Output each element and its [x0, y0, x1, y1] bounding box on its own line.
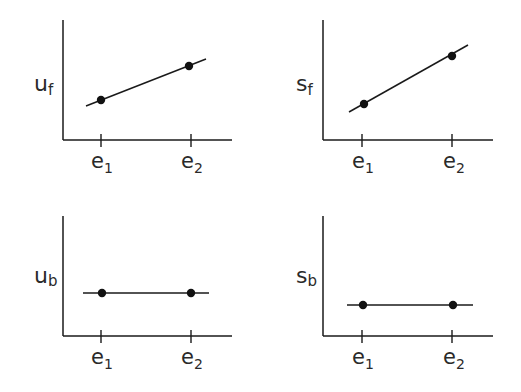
x-tick-label-e2: e2 — [443, 345, 465, 372]
x-tick-label-e1: e1 — [352, 149, 374, 176]
y-axis-label: uf — [34, 71, 54, 99]
data-point-e1 — [97, 96, 105, 104]
data-point-e2 — [448, 52, 456, 60]
panel-sb: sb e1 e2 — [296, 216, 493, 372]
data-point-e1 — [360, 100, 368, 108]
data-point-e2 — [449, 301, 457, 309]
panel-sf: sf e1 e2 — [296, 20, 493, 176]
data-point-e1 — [98, 289, 106, 297]
data-point-e1 — [359, 301, 367, 309]
y-axis-label: sb — [296, 263, 317, 290]
x-tick-label-e2: e2 — [181, 345, 203, 372]
x-tick-label-e1: e1 — [91, 149, 113, 176]
y-axis-label: sf — [296, 71, 313, 99]
x-tick-label-e1: e1 — [352, 345, 374, 372]
data-point-e2 — [185, 62, 193, 70]
x-tick-label-e1: e1 — [91, 345, 113, 372]
x-tick-label-e2: e2 — [443, 149, 465, 176]
panel-uf: uf e1 e2 — [34, 20, 232, 176]
data-point-e2 — [187, 289, 195, 297]
y-axis-label: ub — [34, 263, 57, 290]
four-panel-figure: uf e1 e2 sf e1 e2 ub e1 e2 sb — [0, 0, 521, 392]
panel-ub: ub e1 e2 — [34, 216, 232, 372]
x-tick-label-e2: e2 — [181, 149, 203, 176]
